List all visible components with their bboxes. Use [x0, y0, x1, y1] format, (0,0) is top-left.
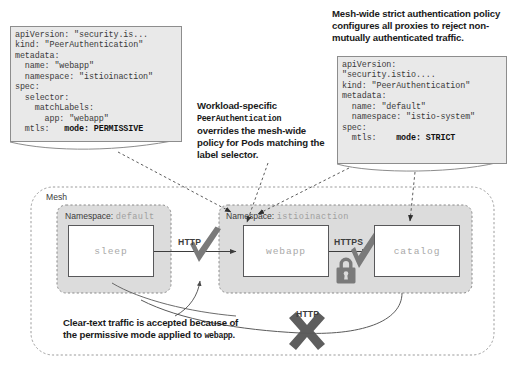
- namespace-label-text: Namespace:: [65, 211, 113, 221]
- service-name-webapp: webapp: [266, 246, 306, 257]
- caption-workload-policy: Workload-specific PeerAuthentication ove…: [197, 100, 335, 161]
- namespace-istioinaction-label: Namespace: istioinaction: [226, 211, 349, 222]
- caption-bottom-mono: webapp: [204, 331, 232, 340]
- code-left-highlight: mode: PERMISSIVE: [49, 124, 143, 134]
- service-name-sleep: sleep: [94, 246, 127, 257]
- code-block-mesh-policy: apiVersion: "security.istio.... kind: "P…: [337, 56, 507, 164]
- code-block-workload-policy: apiVersion: "security.is... kind: "PeerA…: [10, 26, 182, 142]
- service-name-catalog: catalog: [394, 246, 441, 257]
- service-box-webapp: webapp: [243, 225, 329, 277]
- service-box-catalog: catalog: [374, 225, 460, 277]
- service-box-sleep: sleep: [68, 225, 154, 277]
- mesh-label: Mesh: [46, 192, 67, 202]
- namespace-default-label: Namespace: default: [65, 211, 155, 222]
- protocol-label-https-webapp-catalog: HTTPS: [334, 237, 363, 247]
- diagram-canvas: apiVersion: "security.is... kind: "PeerA…: [0, 0, 520, 379]
- namespace-default-value: default: [116, 212, 155, 222]
- code-right-highlight: mode: STRICT: [376, 133, 455, 143]
- caption-middle-mono: PeerAuthentication: [197, 114, 281, 123]
- protocol-label-http-blocked: HTTP: [296, 309, 319, 319]
- caption-bottom-period: .: [233, 329, 236, 340]
- caption-middle-line1: Workload-specific: [197, 100, 277, 111]
- caption-clear-text-accepted: Clear-text traffic is accepted because o…: [63, 317, 253, 342]
- protocol-label-http-sleep-webapp: HTTP: [178, 237, 201, 247]
- namespace-label-text: Namespace:: [226, 211, 274, 221]
- code-left-body: apiVersion: "security.is... kind: "PeerA…: [15, 30, 153, 134]
- namespace-istioinaction-value: istioinaction: [277, 212, 349, 222]
- code-right-body: apiVersion: "security.istio.... kind: "P…: [342, 60, 475, 143]
- caption-middle-line2: overrides the mesh-wide policy for Pods …: [197, 125, 324, 160]
- caption-mesh-wide-policy: Mesh-wide strict authentication policy c…: [332, 8, 518, 44]
